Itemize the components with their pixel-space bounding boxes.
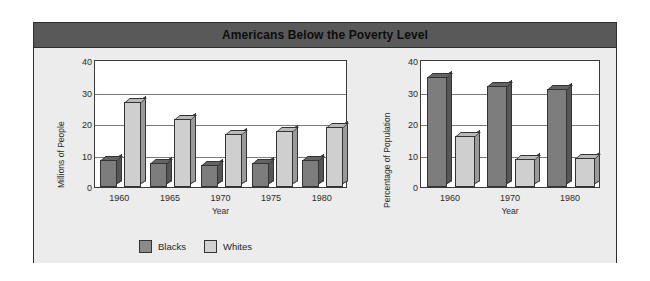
y-axis-title-right: Percentage of Population [382,113,392,208]
bar-blacks-1975 [252,163,269,187]
bar-face [150,163,167,187]
figure-title: Americans Below the Poverty Level [222,28,428,42]
x-tick-1980: 1980 [312,193,332,203]
bar-face [252,163,269,187]
y-tick-40: 40 [408,58,418,67]
bar-side [567,83,572,184]
bar-face [487,86,507,187]
legend-item-whites: Whites [204,240,252,253]
y-tick-40: 40 [82,58,92,67]
x-tick-1975: 1975 [261,193,281,203]
bar-side [507,80,512,184]
bar-blacks-1960 [427,77,447,187]
bar-face [100,160,117,187]
bar-face [302,160,319,187]
bar-side [447,71,452,184]
y-tick-30: 30 [408,89,418,98]
bar-whites-1970 [515,159,535,187]
bar-side [293,125,298,184]
bar-face [427,77,447,187]
bar-whites-1960 [455,136,475,187]
bar-whites-1980 [326,127,343,187]
y-tick-labels-right: 403020100 [396,60,418,188]
y-tick-0: 0 [87,184,92,193]
x-tick-1965: 1965 [160,193,180,203]
legend-swatch-whites-icon [204,240,217,253]
x-tick-1970: 1970 [210,193,230,203]
bar-face [547,89,567,187]
bar-face [124,102,141,187]
y-tick-20: 20 [408,121,418,130]
bar-side [191,113,196,184]
bar-face [455,136,475,187]
bar-face [201,165,218,187]
bar-blacks-1970 [201,165,218,187]
bar-face [225,134,242,187]
bar-blacks-1980 [302,160,319,187]
y-tick-labels-left: 403020100 [70,60,92,188]
plot-area-left [94,60,347,188]
y-tick-10: 10 [408,152,418,161]
bar-face [515,159,535,187]
bar-side [141,96,146,184]
chart-percentage-of-population: Percentage of Population 403020100 19601… [370,48,618,233]
bar-face [575,158,595,187]
charts-region: Millions of People 403020100 19601965197… [34,48,616,263]
legend-label-blacks: Blacks [158,241,186,252]
bar-side [242,128,247,184]
x-tick-1960: 1960 [440,193,460,203]
legend-swatch-blacks-icon [139,240,152,253]
y-axis-title-left: Millions of People [56,121,66,188]
bar-face [326,127,343,187]
poverty-chart-figure: Americans Below the Poverty Level Millio… [33,22,617,263]
legend-label-whites: Whites [223,241,252,252]
figure-title-bar: Americans Below the Poverty Level [34,23,616,48]
bar-face [174,119,191,187]
legend-item-blacks: Blacks [139,240,186,253]
bar-whites-1960 [124,102,141,187]
bar-blacks-1960 [100,160,117,187]
x-axis-title-right: Year [501,206,518,216]
bar-side [343,121,348,184]
y-tick-10: 10 [82,152,92,161]
bar-whites-1965 [174,119,191,187]
bar-whites-1975 [276,131,293,187]
bar-blacks-1965 [150,163,167,187]
gridline-30 [95,94,346,95]
bar-side [475,130,480,184]
x-axis-title-left: Year [212,206,229,216]
bar-whites-1970 [225,134,242,187]
chart-legend: Blacks Whites [139,240,252,253]
bar-whites-1980 [575,158,595,187]
y-tick-0: 0 [413,184,418,193]
bar-blacks-1980 [547,89,567,187]
bar-blacks-1970 [487,86,507,187]
y-tick-30: 30 [82,89,92,98]
x-tick-1960: 1960 [109,193,129,203]
x-tick-1980: 1980 [560,193,580,203]
x-tick-1970: 1970 [500,193,520,203]
y-tick-20: 20 [82,121,92,130]
plot-area-right [420,60,600,188]
bar-face [276,131,293,187]
chart-millions-of-people: Millions of People 403020100 19601965197… [42,48,362,233]
